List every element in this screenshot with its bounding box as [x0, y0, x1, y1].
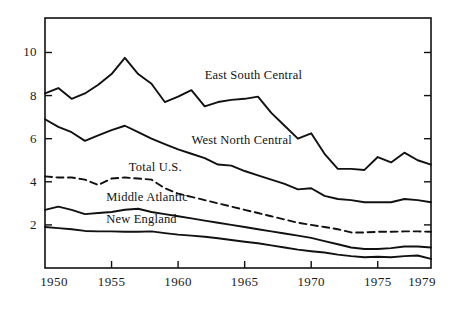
y-tick-label: 4: [6, 174, 37, 190]
series-line-2: [45, 176, 431, 232]
series-line-3: [45, 207, 431, 249]
series-label-0: East South Central: [205, 68, 302, 83]
x-tick-label: 1970: [297, 274, 325, 290]
x-tick-label: 1960: [164, 274, 192, 290]
series-label-2: Total U.S.: [129, 160, 182, 175]
x-tick-label: 1979: [408, 274, 436, 290]
y-tick-label: 8: [6, 88, 37, 104]
y-tick-label: 2: [6, 217, 37, 233]
plot-area: [0, 0, 464, 320]
y-tick-label: 10: [6, 44, 37, 60]
series-label-4: New England: [106, 212, 177, 227]
series-lines: [45, 58, 431, 259]
y-tick-label: 6: [6, 131, 37, 147]
x-tick-label: 1955: [98, 274, 126, 290]
x-tick-label: 1965: [231, 274, 259, 290]
x-tick-label: 1950: [40, 274, 68, 290]
line-chart: 246810 1950195519601965197019751979 East…: [0, 0, 464, 320]
series-label-1: West North Central: [191, 133, 292, 148]
series-label-3: Middle Atlantic: [106, 190, 188, 205]
x-tick-label: 1975: [364, 274, 392, 290]
